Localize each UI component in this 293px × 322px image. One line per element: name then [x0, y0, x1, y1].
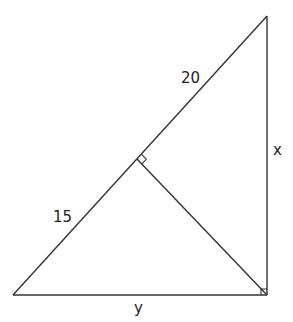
- label-y: y: [134, 299, 143, 317]
- triangle-diagram: 20 15 x y: [0, 0, 293, 322]
- hypotenuse: [13, 16, 267, 295]
- altitude: [137, 159, 267, 295]
- label-15: 15: [53, 208, 72, 226]
- right-angle-mark-foot: [141, 154, 146, 164]
- label-x: x: [273, 141, 282, 159]
- label-20: 20: [181, 69, 200, 87]
